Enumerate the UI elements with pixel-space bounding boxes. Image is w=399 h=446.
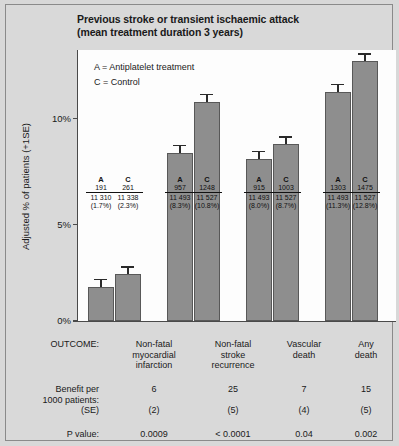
bar-label-group0-A: A 191 11 310 (1.7%)	[86, 176, 116, 209]
figure-frame: Previous stroke or transient ischaemic a…	[5, 4, 393, 441]
bar-denominator-group2-A: 11 493	[244, 193, 274, 201]
bar-numerator-group1-C: 1248	[192, 184, 222, 193]
legend-item-control: C = Control	[94, 75, 194, 90]
errorbar-cap-group1-A	[173, 145, 186, 147]
bar-denominator-group0-A: 11 310	[86, 193, 116, 201]
bar-percent-group3-A: (11.3%)	[323, 201, 353, 209]
outcome-cell-0-line0: Non-fatal	[115, 339, 193, 350]
errorbar-cap-group2-A	[252, 151, 265, 153]
benefit-se-2: (4)	[273, 405, 335, 416]
bar-numerator-group0-A: 191	[86, 184, 116, 193]
figure-root: Previous stroke or transient ischaemic a…	[0, 0, 399, 446]
bar-letter-group0-C: C	[113, 176, 143, 183]
bar-percent-group1-C: (10.8%)	[192, 201, 222, 209]
outcome-cell-2-line0: Vascular	[273, 339, 335, 350]
errorbar-cap-group1-C	[200, 94, 213, 96]
outcome-cell-3-line1: death	[336, 350, 396, 361]
pvalue-1: < 0.0001	[194, 429, 272, 440]
bar-letter-group1-A: A	[165, 176, 195, 183]
bar-denominator-group1-A: 11 493	[165, 193, 195, 201]
errorbar-cap-group0-A	[94, 279, 107, 281]
bar-letter-group3-A: A	[323, 176, 353, 183]
bar-label-group1-C: C 1248 11 527 (10.8%)	[192, 176, 222, 209]
errorbar-cap-group3-A	[331, 84, 344, 86]
chart-title-line2: (mean treatment duration 3 years)	[77, 26, 397, 39]
bar-letter-group2-C: C	[271, 176, 301, 183]
bar-numerator-group2-A: 915	[244, 184, 274, 193]
bar-numerator-group3-A: 1303	[323, 184, 353, 193]
bar-letter-group3-C: C	[350, 176, 380, 183]
pvalue-2: 0.04	[273, 429, 335, 440]
outcome-cell-1-line1: stroke	[194, 350, 272, 361]
chart-title-line1: Previous stroke or transient ischaemic a…	[77, 13, 397, 26]
outcome-cell-2-line1: death	[273, 350, 335, 361]
outcome-cell-0-line1: myocardial	[115, 350, 193, 361]
bar-label-group2-A: A 915 11 493 (8.0%)	[244, 176, 274, 209]
bar-percent-group0-A: (1.7%)	[86, 201, 116, 209]
bar-label-group1-A: A 957 11 493 (8.3%)	[165, 176, 195, 209]
row-label-pvalue: P value:	[41, 429, 99, 440]
bar-group0-A	[88, 287, 114, 322]
benefit-value-3: 15	[336, 384, 396, 395]
row-label-benefit-line1: 1000 patients:	[14, 395, 99, 406]
row-label-outcome: OUTCOME:	[41, 339, 99, 350]
bar-letter-group1-C: C	[192, 176, 222, 183]
benefit-se-0: (2)	[115, 405, 193, 416]
chart-legend: A = Antiplatelet treatment C = Control	[94, 60, 194, 90]
bar-group1-C	[194, 102, 220, 321]
bar-percent-group2-A: (8.0%)	[244, 201, 274, 209]
plot-area: A = Antiplatelet treatment C = Control A…	[77, 50, 396, 322]
bar-percent-group0-C: (2.3%)	[113, 201, 143, 209]
outcome-cell-3-line0: Any	[336, 339, 396, 350]
outcome-cell-0-line2: infarction	[115, 360, 193, 371]
errorbar-cap-group2-C	[279, 136, 292, 138]
bar-denominator-group3-C: 11 527	[350, 193, 380, 201]
bar-label-group3-C: C 1475 11 527 (12.8%)	[350, 176, 380, 209]
row-label-benefit-line2: (SE)	[41, 405, 99, 416]
legend-item-antiplatelet: A = Antiplatelet treatment	[94, 60, 194, 75]
y-tick-label-0: 0%	[37, 315, 71, 326]
benefit-se-1: (5)	[194, 405, 272, 416]
outcome-cell-1-line2: recurrence	[194, 360, 272, 371]
pvalue-0: 0.0009	[115, 429, 193, 440]
benefit-value-0: 6	[115, 384, 193, 395]
bar-denominator-group3-A: 11 493	[323, 193, 353, 201]
errorbar-cap-group3-C	[358, 53, 371, 55]
bar-label-group3-A: A 1303 11 493 (11.3%)	[323, 176, 353, 209]
benefit-se-3: (5)	[336, 405, 396, 416]
benefit-value-2: 7	[273, 384, 335, 395]
chart-title: Previous stroke or transient ischaemic a…	[77, 13, 397, 39]
y-axis-title: Adjusted % of patients (+1SE)	[20, 72, 31, 302]
y-tick-label-5: 5%	[37, 219, 71, 230]
bar-percent-group3-C: (12.8%)	[350, 201, 380, 209]
bar-percent-group1-A: (8.3%)	[165, 201, 195, 209]
bar-denominator-group0-C: 11 338	[113, 193, 143, 201]
benefit-value-1: 25	[194, 384, 272, 395]
bar-denominator-group2-C: 11 527	[271, 193, 301, 201]
bar-numerator-group1-A: 957	[165, 184, 195, 193]
bar-label-group2-C: C 1003 11 527 (8.7%)	[271, 176, 301, 209]
bar-numerator-group3-C: 1475	[350, 184, 380, 193]
bar-group0-C	[115, 274, 141, 321]
bar-numerator-group0-C: 261	[113, 184, 143, 193]
bar-letter-group2-A: A	[244, 176, 274, 183]
outcome-cell-1-line0: Non-fatal	[194, 339, 272, 350]
bar-label-group0-C: C 261 11 338 (2.3%)	[113, 176, 143, 209]
bar-letter-group0-A: A	[86, 176, 116, 183]
y-tick-label-10: 10%	[37, 113, 71, 124]
summary-table: OUTCOME: Non-fatal myocardial infarction…	[14, 331, 399, 441]
bar-numerator-group2-C: 1003	[271, 184, 301, 193]
bar-group2-C	[273, 144, 299, 321]
errorbar-cap-group0-C	[121, 266, 134, 268]
row-label-benefit-line0: Benefit per	[41, 384, 99, 395]
bar-denominator-group1-C: 11 527	[192, 193, 222, 201]
bar-percent-group2-C: (8.7%)	[271, 201, 301, 209]
pvalue-3: 0.002	[336, 429, 396, 440]
